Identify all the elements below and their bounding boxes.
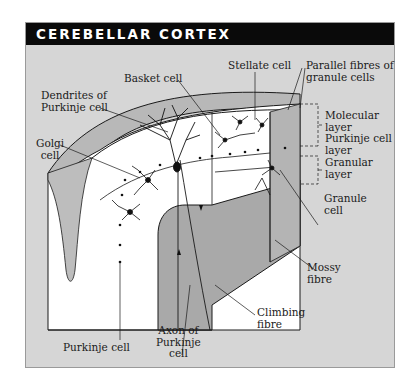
label-dendrites-purkinje: Dendrites of Purkinje cell [41, 90, 108, 113]
label-basket-cell: Basket cell [124, 73, 182, 85]
label-axon-purkinje: Axon of Purkinje cell [156, 325, 201, 360]
block-side-face [270, 104, 300, 262]
label-climbing-fibre: Climbing fibre [257, 307, 305, 330]
label-granule-cell: Granule cell [324, 193, 367, 216]
label-molecular-layer: Molecular layer [325, 110, 379, 133]
label-mossy-fibre: Mossy fibre [307, 262, 341, 285]
label-purkinje-cell: Purkinje cell [63, 342, 130, 354]
label-purkinje-cell-layer: Purkinje cell layer [325, 133, 392, 156]
label-golgi-cell: Golgi cell [36, 138, 64, 161]
label-granular-layer: Granular layer [325, 157, 373, 180]
label-parallel-fibres: Parallel fibres of granule cells [306, 60, 394, 83]
label-stellate-cell: Stellate cell [228, 60, 291, 72]
